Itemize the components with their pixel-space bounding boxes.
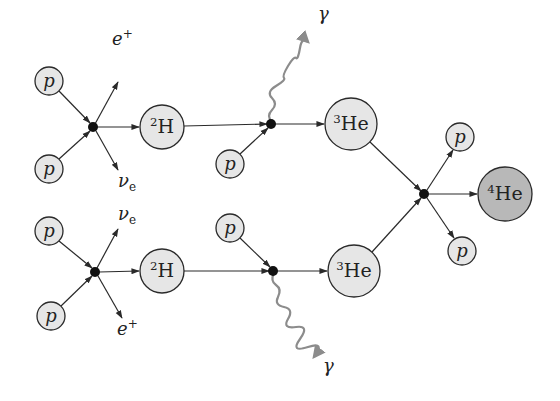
node-label: p [224, 217, 236, 238]
vertex-v1 [88, 122, 98, 132]
edge-p6-v4 [240, 238, 270, 267]
node-p3: p [216, 150, 244, 178]
nodes: pp2Hp3Hepp2Hp3Hepp4He [35, 67, 532, 330]
node-he4: 4He [478, 167, 532, 221]
node-he3_top: 3He [325, 98, 377, 150]
label-e_plus_bot: e+ [117, 317, 138, 339]
edge-v5-p8 [427, 198, 454, 238]
vertex-v5 [419, 189, 429, 199]
edge-he3bot-v5 [372, 198, 421, 252]
edge-v5-p7 [427, 150, 453, 190]
node-p1: p [35, 67, 63, 95]
edge-p4-v3 [59, 241, 92, 268]
node-label: p [43, 158, 55, 179]
node-label: p [43, 220, 55, 241]
node-p6: p [216, 214, 244, 242]
vertex-v3 [90, 267, 100, 277]
label-nu_e_bot: νe [118, 203, 136, 227]
node-h2_top: 2H [140, 105, 184, 149]
label-gamma_bot: γ [323, 355, 334, 376]
node-label: p [456, 240, 468, 261]
node-p2: p [35, 155, 63, 183]
edge-he3top-v5 [370, 142, 421, 191]
vertex-v4 [268, 266, 278, 276]
edge-v3-h2 [99, 271, 139, 272]
pp-chain-diagram: pp2Hp3Hepp2Hp3Hepp4He e+νeγνee+γ [0, 0, 560, 401]
edge-v1-nue [96, 131, 118, 170]
label-gamma_top: γ [318, 3, 329, 24]
edge-h2-v2 [184, 124, 267, 126]
node-label: p [43, 70, 55, 91]
photon-bottom [272, 273, 318, 357]
node-p4: p [35, 217, 63, 245]
edges [59, 82, 477, 318]
node-label: p [454, 126, 466, 147]
vertices [88, 119, 429, 277]
label-e_plus_top: e+ [112, 27, 133, 49]
vertex-v2 [266, 119, 276, 129]
node-p5: p [37, 302, 65, 330]
node-label: p [224, 153, 236, 174]
edge-p2-v1 [59, 131, 90, 159]
edge-v1-eplus [95, 82, 118, 124]
particle-labels: e+νeγνee+γ [112, 3, 334, 376]
photon-top [269, 40, 308, 122]
node-he3_bot: 3He [328, 245, 380, 297]
edge-p5-v3 [61, 276, 92, 306]
node-h2_bot: 2H [140, 249, 184, 293]
edge-p1-v1 [59, 91, 90, 123]
edge-p3-v2 [240, 128, 268, 154]
node-p7: p [446, 123, 474, 151]
node-p8: p [448, 237, 476, 265]
edge-v3-eplus [98, 276, 122, 318]
node-label: p [45, 305, 57, 326]
label-nu_e_top: νe [118, 170, 136, 194]
diagram-canvas: pp2Hp3Hepp2Hp3Hepp4He e+νeγνee+γ [0, 0, 560, 401]
edge-v3-nue [97, 229, 118, 268]
